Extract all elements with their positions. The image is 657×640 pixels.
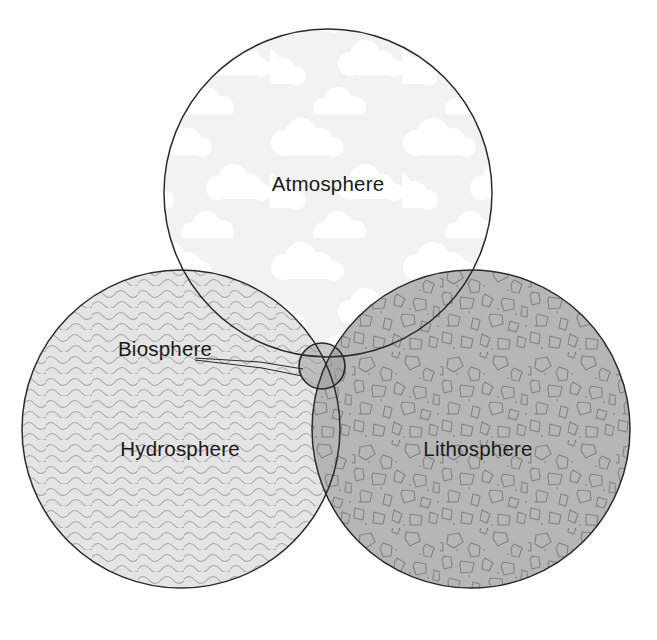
atmosphere-label: Atmosphere	[272, 172, 385, 195]
hydrosphere-label: Hydrosphere	[120, 437, 240, 460]
sphere-fills	[22, 29, 630, 588]
lithosphere-label: Lithosphere	[423, 437, 532, 460]
venn-diagram-canvas: Atmosphere Hydrosphere Lithosphere Biosp…	[0, 0, 657, 640]
earth-spheres-venn-svg: Atmosphere Hydrosphere Lithosphere Biosp…	[0, 0, 657, 640]
biosphere-label: Biosphere	[118, 337, 212, 360]
